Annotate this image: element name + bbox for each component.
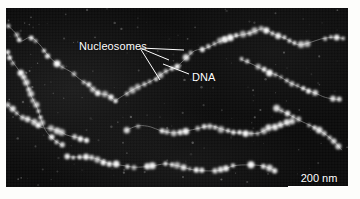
background-speck bbox=[126, 52, 127, 53]
background-speck bbox=[298, 109, 300, 111]
background-speck bbox=[113, 175, 114, 176]
background-speck bbox=[310, 130, 311, 131]
nucleosome-bead bbox=[188, 167, 191, 170]
nucleosome-bead bbox=[200, 168, 204, 172]
nucleosome-bead bbox=[164, 162, 168, 166]
background-speck bbox=[231, 62, 233, 64]
nucleosome-bead bbox=[341, 37, 344, 40]
nucleosome-bead bbox=[36, 123, 41, 128]
background-speck bbox=[333, 98, 335, 100]
background-speck bbox=[159, 116, 160, 117]
background-speck bbox=[252, 89, 254, 91]
background-speck bbox=[269, 133, 270, 134]
background-speck bbox=[25, 71, 26, 72]
background-speck bbox=[200, 86, 202, 88]
background-speck bbox=[336, 29, 337, 30]
background-speck bbox=[269, 99, 270, 100]
nucleosome-bead bbox=[231, 130, 235, 134]
background-speck bbox=[335, 141, 337, 143]
background-speck bbox=[71, 145, 72, 146]
background-speck bbox=[243, 33, 245, 35]
background-speck bbox=[203, 104, 205, 106]
background-speck bbox=[103, 159, 104, 160]
nucleosome-bead bbox=[49, 135, 54, 140]
background-speck bbox=[81, 169, 83, 171]
nucleosome-bead bbox=[165, 130, 170, 135]
background-speck bbox=[122, 117, 123, 118]
background-speck bbox=[317, 82, 319, 84]
background-speck bbox=[92, 70, 94, 72]
nucleosome-bead bbox=[218, 127, 224, 133]
nucleosome-bead bbox=[55, 140, 59, 144]
background-speck bbox=[179, 64, 181, 66]
background-speck bbox=[271, 116, 273, 118]
background-speck bbox=[32, 26, 34, 28]
background-speck bbox=[144, 171, 146, 173]
nucleosome-bead bbox=[200, 47, 204, 51]
nucleosome-bead bbox=[291, 115, 294, 118]
background-speck bbox=[185, 160, 187, 162]
nucleosome-bead bbox=[207, 124, 212, 129]
background-speck bbox=[298, 149, 300, 151]
background-speck bbox=[114, 87, 115, 88]
background-speck bbox=[321, 143, 322, 144]
nucleosome-bead bbox=[78, 137, 83, 142]
background-speck bbox=[91, 158, 92, 159]
background-speck bbox=[44, 84, 45, 85]
nucleosome-bead bbox=[132, 165, 137, 170]
background-speck bbox=[37, 63, 38, 64]
background-speck bbox=[253, 94, 255, 96]
background-speck bbox=[235, 173, 236, 174]
background-speck bbox=[286, 67, 287, 68]
background-speck bbox=[157, 50, 159, 52]
nucleosome-bead bbox=[183, 128, 189, 134]
scale-bar-rule bbox=[288, 186, 348, 187]
nucleosome-bead bbox=[24, 80, 30, 86]
background-speck bbox=[309, 24, 310, 25]
background-speck bbox=[238, 134, 239, 135]
background-speck bbox=[289, 125, 291, 127]
nucleosome-bead bbox=[42, 49, 45, 52]
nucleosome-bead bbox=[29, 36, 33, 40]
background-speck bbox=[182, 112, 184, 114]
background-speck bbox=[302, 18, 304, 20]
em-figure: Nucleosomes DNA 200 nm bbox=[0, 0, 360, 199]
background-speck bbox=[310, 73, 312, 75]
nucleosome-bead bbox=[136, 125, 139, 128]
background-speck bbox=[127, 170, 128, 171]
background-speck bbox=[221, 109, 223, 111]
background-speck bbox=[347, 139, 348, 140]
nucleosome-bead bbox=[323, 37, 327, 41]
background-speck bbox=[28, 24, 30, 26]
nucleosome-bead bbox=[61, 65, 64, 68]
background-speck bbox=[123, 172, 125, 174]
background-speck bbox=[42, 168, 44, 170]
nucleosome-bead bbox=[289, 81, 294, 86]
nucleosome-bead bbox=[54, 61, 60, 67]
background-speck bbox=[73, 42, 74, 43]
background-speck bbox=[166, 159, 168, 161]
background-speck bbox=[9, 36, 11, 38]
background-speck bbox=[187, 38, 189, 40]
background-speck bbox=[248, 20, 250, 22]
background-speck bbox=[197, 44, 199, 46]
nucleosome-bead bbox=[8, 56, 12, 60]
nucleosome-bead bbox=[288, 39, 292, 43]
background-speck bbox=[30, 16, 32, 18]
nucleosome-bead bbox=[65, 154, 70, 159]
background-speck bbox=[168, 38, 170, 40]
background-speck bbox=[22, 101, 24, 103]
nucleosome-bead bbox=[158, 72, 163, 77]
background-speck bbox=[24, 22, 26, 24]
background-speck bbox=[310, 168, 311, 169]
background-speck bbox=[110, 126, 112, 128]
background-speck bbox=[264, 78, 266, 80]
nucleosome-bead bbox=[240, 57, 243, 60]
background-speck bbox=[166, 127, 168, 129]
background-speck bbox=[55, 79, 56, 80]
nucleosome-bead bbox=[334, 35, 339, 40]
background-speck bbox=[182, 176, 184, 178]
background-speck bbox=[105, 160, 106, 161]
nucleosome-bead bbox=[10, 106, 15, 111]
background-speck bbox=[203, 147, 205, 149]
